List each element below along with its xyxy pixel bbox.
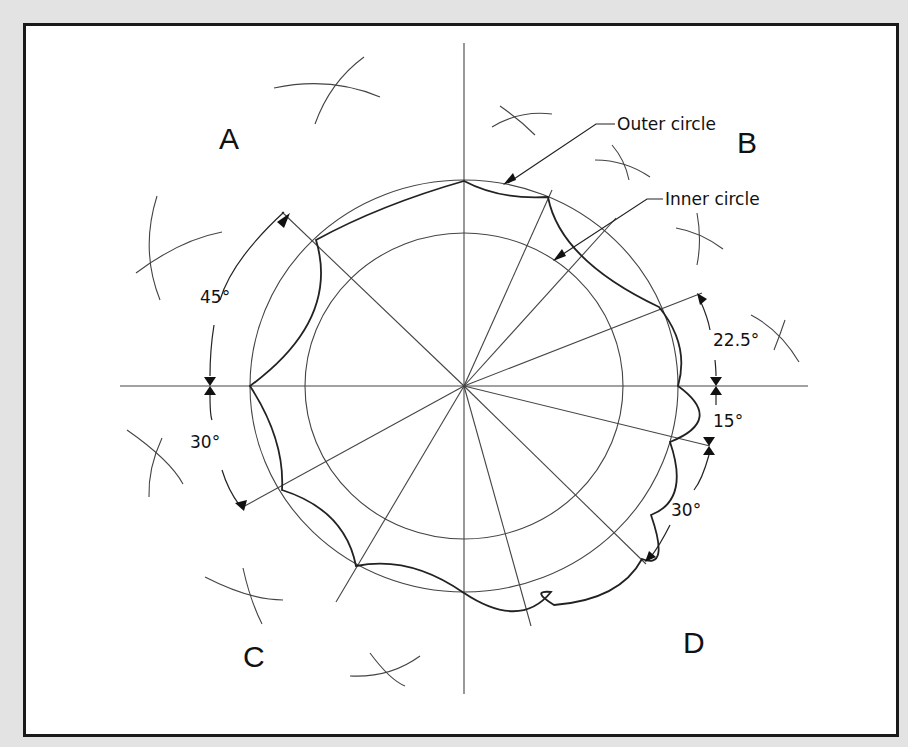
callout-outer — [503, 124, 615, 185]
angle-label-30-left: 30° — [190, 432, 220, 452]
quadrant-label-d: D — [683, 626, 705, 659]
callout-inner — [553, 199, 663, 261]
angle-label-22-5: 22.5° — [713, 330, 759, 350]
quadrant-label-b: B — [737, 126, 757, 159]
inner-circle-label: Inner circle — [665, 189, 760, 209]
radial-lines — [241, 190, 710, 626]
angle-label-15: 15° — [713, 411, 743, 431]
angle-label-30-right: 30° — [671, 500, 701, 520]
outer-circle-label: Outer circle — [617, 114, 716, 134]
angle-label-45: 45° — [200, 287, 230, 307]
quadrant-label-a: A — [219, 122, 239, 155]
quadrant-label-c: C — [243, 640, 265, 673]
scallop-diagram: A B C D Outer circle Inner circle 45° 30… — [0, 0, 908, 747]
